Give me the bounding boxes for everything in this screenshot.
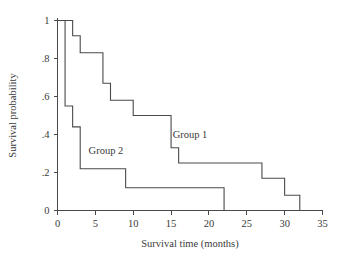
- kaplan-meier-plot: 0.2.4.6.81 05101520253035 Group 1Group 2…: [0, 0, 340, 269]
- x-tick-label: 25: [242, 218, 253, 229]
- x-tick-label: 30: [279, 218, 290, 229]
- x-tick-label: 0: [55, 218, 60, 229]
- y-tick-label: .8: [42, 53, 50, 64]
- y-axis-title: Survival probability: [7, 73, 18, 158]
- y-tick-label: 1: [44, 15, 49, 26]
- y-axis-ticks: 0.2.4.6.81: [42, 15, 58, 216]
- y-tick-label: .4: [42, 129, 51, 140]
- series-label-group-1: Group 1: [173, 129, 208, 140]
- survival-curve-group-1: [58, 21, 300, 211]
- x-axis-title: Survival time (months): [141, 238, 239, 250]
- x-tick-label: 35: [317, 218, 328, 229]
- survival-curve-figure: 0.2.4.6.81 05101520253035 Group 1Group 2…: [0, 0, 340, 269]
- axes: [58, 18, 323, 211]
- x-tick-label: 20: [204, 218, 215, 229]
- x-tick-label: 15: [166, 218, 177, 229]
- y-tick-label: .2: [42, 167, 50, 178]
- series-annotations: Group 1Group 2: [89, 129, 208, 155]
- y-tick-label: .6: [42, 91, 50, 102]
- x-tick-label: 5: [93, 218, 98, 229]
- x-tick-label: 10: [128, 218, 139, 229]
- x-axis-ticks: 05101520253035: [55, 211, 328, 229]
- y-tick-label: 0: [44, 205, 49, 216]
- partial-caption: [0, 260, 340, 269]
- series-label-group-2: Group 2: [89, 145, 124, 156]
- series-curves: [58, 21, 300, 211]
